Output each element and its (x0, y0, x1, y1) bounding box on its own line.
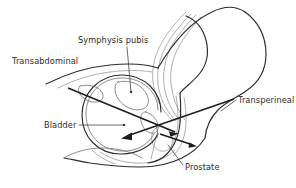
buttock-outline (205, 12, 266, 138)
label-bladder: Bladder (44, 120, 77, 130)
leader-dot-symphysis-pubis (130, 91, 133, 94)
transrectal-probe-arrowhead (189, 142, 197, 147)
label-transabdominal: Transabdominal (11, 56, 78, 66)
pubic-bone-outline (115, 81, 148, 110)
label-transperineal: Transperineal (237, 95, 294, 105)
prostate-biopsy-diagram: Symphysis pubis Transabdominal Transperi… (0, 0, 296, 188)
anatomy-illustration: Symphysis pubis Transabdominal Transperi… (0, 0, 296, 188)
pelvic-floor-faint-2 (92, 150, 115, 164)
anatomy-main-outline (46, 8, 266, 168)
leader-dot-bladder (123, 124, 126, 127)
label-prostate: Prostate (185, 162, 220, 172)
leader-prostate (168, 145, 183, 165)
label-symphysis-pubis: Symphysis pubis (78, 35, 148, 45)
bladder-inner-wall (86, 78, 158, 151)
transrectal-probe-shaft (160, 134, 193, 145)
transperineal-probe-arrowhead (121, 133, 132, 141)
sacrum-inner-curve-3 (164, 15, 196, 122)
bladder-outline (82, 75, 161, 154)
abdominal-wall-outline (46, 64, 158, 84)
leader-symphysis-pubis (127, 47, 131, 92)
